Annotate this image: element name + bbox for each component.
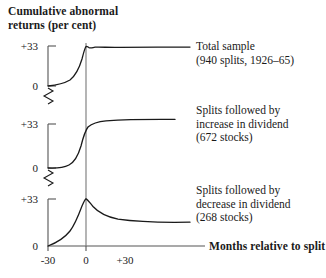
y-tick-label-panel-2-top: +33 bbox=[4, 118, 38, 130]
axis-break-icon-2 bbox=[44, 170, 53, 186]
y-tick-label-panel-3-top: +33 bbox=[4, 193, 38, 205]
series-label-increase-dividend: Splits followed by increase in dividend … bbox=[196, 104, 289, 145]
x-tick-label-minus30: -30 bbox=[31, 254, 65, 266]
series-label-total-sample: Total sample (940 splits, 1926–65) bbox=[196, 40, 294, 67]
x-tick-label-plus30: +30 bbox=[108, 254, 142, 266]
series-label-decrease-dividend: Splits followed by decrease in dividend … bbox=[196, 184, 291, 225]
series-line-decrease-dividend bbox=[48, 199, 190, 246]
x-tick-label-zero: 0 bbox=[69, 254, 103, 266]
x-axis-title: Months relative to split bbox=[209, 240, 325, 252]
chart-title: Cumulative abnormal returns (per cent) bbox=[8, 4, 118, 32]
y-tick-label-panel-2-bottom: 0 bbox=[4, 162, 38, 174]
series-line-increase-dividend bbox=[48, 119, 175, 168]
axis-break-icon-1 bbox=[44, 88, 53, 104]
chart-container: Cumulative abnormal returns (per cent) +… bbox=[0, 0, 326, 278]
y-tick-label-panel-1-bottom: 0 bbox=[4, 80, 38, 92]
series-line-total-sample bbox=[48, 46, 190, 86]
y-tick-label-panel-1-top: +33 bbox=[4, 40, 38, 52]
y-tick-label-panel-3-bottom: 0 bbox=[4, 240, 38, 252]
